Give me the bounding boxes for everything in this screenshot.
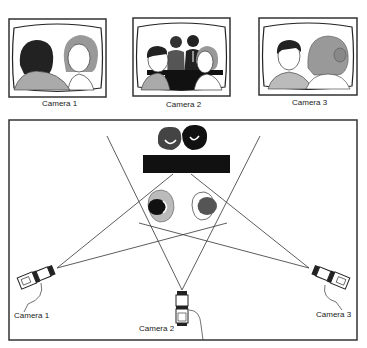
monitor-label-camera-3: Camera 3: [292, 98, 327, 107]
camera-2-icon: [176, 291, 188, 326]
monitor-camera-3: [259, 18, 357, 95]
monitor-camera-1: [9, 19, 106, 97]
diagram-canvas: [0, 0, 367, 348]
floorplan: [9, 120, 357, 340]
floorplan-label-camera-2: Camera 2: [139, 324, 174, 333]
floorplan-label-camera-3: Camera 3: [316, 310, 351, 319]
monitor-label-camera-1: Camera 1: [42, 99, 77, 108]
monitor-camera-2: [133, 18, 230, 96]
woman-back-icon: [306, 36, 350, 89]
table-topdown-icon: [143, 155, 230, 173]
monitor-label-camera-2: Camera 2: [166, 100, 201, 109]
floorplan-label-camera-1: Camera 1: [14, 311, 49, 320]
